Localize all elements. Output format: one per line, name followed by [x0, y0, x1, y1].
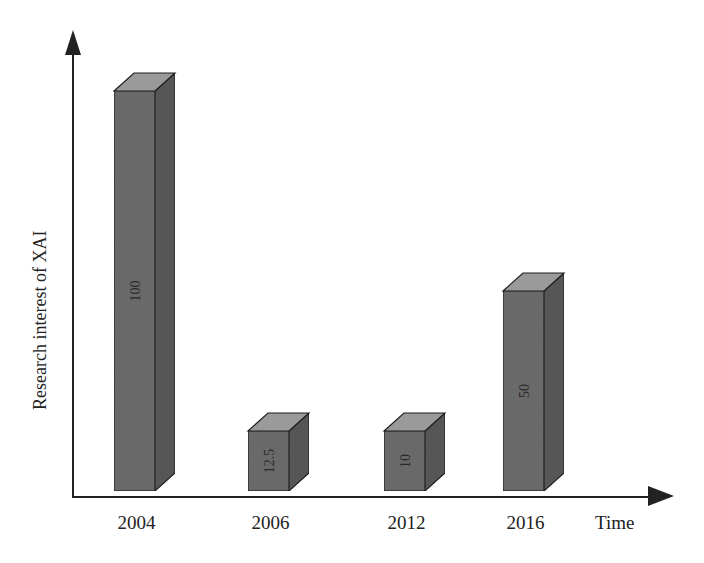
y-axis-arrow-icon	[65, 30, 81, 55]
x-axis-arrow-icon	[648, 486, 674, 506]
bar-2012: 10	[384, 413, 445, 491]
x-tick-label-2012: 2012	[388, 512, 426, 533]
x-tick-label-2006: 2006	[252, 512, 290, 533]
x-axis-label: Time	[595, 512, 634, 533]
bar-value-label: 50	[517, 384, 532, 398]
bar-side-face	[544, 273, 564, 491]
x-tick-label-2004: 2004	[118, 512, 157, 533]
y-axis-label: Research interest of XAI	[30, 231, 50, 410]
bar-2016: 50	[503, 273, 564, 491]
bar-2006: 12.5	[248, 413, 309, 491]
y-axis	[65, 30, 81, 497]
bar-2004: 100	[114, 73, 175, 491]
bar-value-label: 12.5	[262, 449, 277, 474]
x-tick-label-2016: 2016	[507, 512, 545, 533]
bar-value-label: 100	[128, 281, 143, 302]
bar-side-face	[155, 73, 175, 491]
x-axis	[72, 486, 674, 506]
bar-chart: 10012.51050 Research interest of XAI 200…	[0, 0, 704, 563]
bars-group: 10012.51050	[114, 73, 564, 491]
bar-value-label: 10	[398, 454, 413, 468]
x-tick-labels: 2004200620122016	[118, 512, 545, 533]
